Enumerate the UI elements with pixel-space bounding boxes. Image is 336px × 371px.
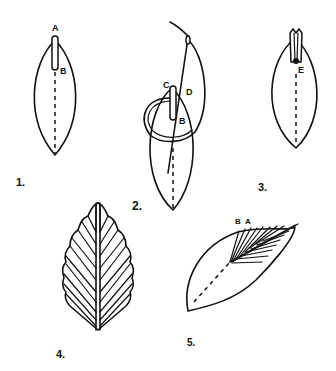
step-number-5: 5. bbox=[187, 337, 196, 348]
needle-eye bbox=[186, 36, 190, 44]
center-vein-dashed bbox=[194, 262, 230, 302]
right-stitches bbox=[100, 216, 132, 326]
figure-1: A B 1. bbox=[16, 23, 76, 188]
step-number-2: 2. bbox=[132, 199, 142, 213]
stitch-knot bbox=[293, 58, 299, 64]
point-label-e: E bbox=[298, 65, 304, 75]
stitch-diagram: A B 1. C D B 2. E 3. bbox=[0, 0, 336, 371]
leaf-outline-scalloped bbox=[63, 203, 134, 330]
thread-tail bbox=[170, 22, 188, 36]
step-number-4: 4. bbox=[56, 348, 65, 360]
point-label-b: B bbox=[179, 116, 186, 126]
stitch-bar bbox=[170, 86, 176, 120]
point-label-b: B bbox=[235, 217, 241, 226]
figure-5: B A 5. bbox=[187, 217, 298, 348]
left-stitches bbox=[64, 216, 96, 326]
point-label-d: D bbox=[186, 87, 193, 97]
point-label-b: B bbox=[60, 66, 67, 76]
tip-stitch bbox=[96, 203, 100, 232]
point-label-c: C bbox=[163, 80, 170, 90]
step-number-1: 1. bbox=[16, 176, 25, 188]
stitch-fan bbox=[290, 29, 302, 62]
step-number-3: 3. bbox=[258, 181, 267, 193]
point-label-a: A bbox=[52, 23, 59, 33]
figure-3: E 3. bbox=[258, 29, 317, 193]
stitch-bar bbox=[52, 36, 58, 70]
figure-2: C D B 2. bbox=[132, 22, 205, 213]
figure-4: 4. bbox=[56, 203, 133, 360]
point-label-a: A bbox=[245, 217, 251, 226]
